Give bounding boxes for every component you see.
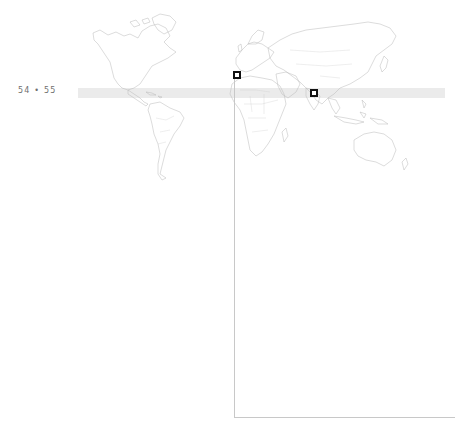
greenland-outline bbox=[152, 14, 176, 34]
new-zealand-outline bbox=[402, 158, 408, 170]
page-numbers: 54 • 55 bbox=[18, 86, 57, 95]
middle-east-outline bbox=[276, 72, 300, 98]
leader-line-horizontal bbox=[234, 417, 455, 418]
asia-outline bbox=[268, 22, 396, 104]
world-map bbox=[0, 0, 458, 421]
scandinavia-outline bbox=[248, 30, 264, 44]
japan-outline bbox=[380, 56, 388, 72]
europe-outline bbox=[236, 42, 274, 72]
central-america-outline bbox=[128, 90, 148, 106]
location-marker-2[interactable] bbox=[310, 89, 318, 97]
southeast-asia-outline bbox=[328, 98, 340, 114]
leader-line-vertical bbox=[234, 79, 235, 418]
australia-outline bbox=[354, 132, 396, 166]
indonesia-outline bbox=[334, 100, 388, 124]
location-marker-1[interactable] bbox=[233, 71, 241, 79]
madagascar-outline bbox=[282, 128, 288, 142]
caribbean-outline bbox=[146, 92, 162, 98]
arctic-islands-outline bbox=[130, 18, 150, 27]
south-america-outline bbox=[148, 102, 184, 180]
africa-outline bbox=[230, 76, 286, 156]
